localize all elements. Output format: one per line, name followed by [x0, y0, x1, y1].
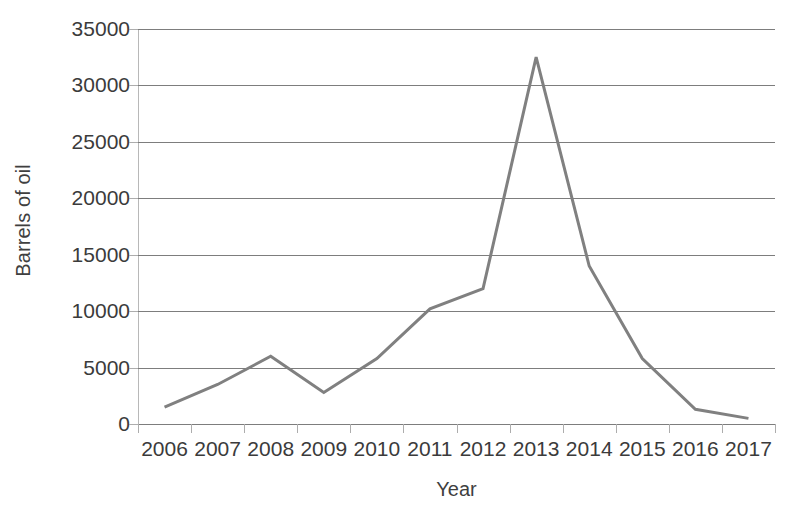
x-axis-tick [722, 424, 723, 433]
y-axis-tick-marks [129, 29, 138, 424]
y-axis-tick [129, 198, 138, 199]
x-axis-tick-label: 2011 [407, 437, 452, 461]
y-axis-tick-label: 35000 [72, 17, 130, 41]
y-axis-title-text: Barrels of oil [12, 164, 35, 277]
x-axis-tick [244, 424, 245, 433]
x-axis-title: Year [138, 478, 775, 501]
x-axis-tick-label: 2015 [619, 437, 666, 461]
x-axis-tick-label: 2010 [354, 437, 401, 461]
y-axis-tick [129, 142, 138, 143]
x-axis-tick [297, 424, 298, 433]
x-axis-tick [616, 424, 617, 433]
plot-area [138, 29, 775, 424]
y-axis-tick [129, 255, 138, 256]
y-axis-tick-label: 20000 [72, 186, 130, 210]
y-axis-tick [129, 368, 138, 369]
x-axis-tick-marks [138, 424, 775, 433]
y-axis-tick [129, 29, 138, 30]
x-axis-tick-label: 2017 [725, 437, 772, 461]
y-axis-tick-labels: 05000100001500020000250003000035000 [40, 0, 138, 440]
series-line-barrels-of-oil [138, 29, 775, 424]
x-axis-tick-label: 2007 [194, 437, 241, 461]
x-axis-tick [403, 424, 404, 433]
x-axis-tick [138, 424, 139, 433]
y-axis-tick [129, 85, 138, 86]
line-chart: Barrels of oil 0500010000150002000025000… [0, 0, 794, 528]
x-axis-tick-label: 2008 [247, 437, 294, 461]
x-axis-tick-label: 2014 [566, 437, 613, 461]
y-axis-tick [129, 424, 138, 425]
x-axis-tick-label: 2006 [141, 437, 188, 461]
y-axis-tick-label: 10000 [72, 299, 130, 323]
x-axis-tick [457, 424, 458, 433]
x-axis-tick [191, 424, 192, 433]
x-axis-tick-label: 2013 [513, 437, 560, 461]
x-axis-tick [350, 424, 351, 433]
x-axis-tick-label: 2012 [460, 437, 507, 461]
y-axis-tick-label: 5000 [83, 356, 130, 380]
x-axis-tick-label: 2009 [300, 437, 347, 461]
y-axis-tick [129, 311, 138, 312]
x-axis-tick [563, 424, 564, 433]
x-axis-tick [775, 424, 776, 433]
x-axis-tick [669, 424, 670, 433]
x-axis-tick-labels: 2006200720082009201020112012201320142015… [138, 437, 775, 469]
x-axis-tick-label: 2016 [672, 437, 719, 461]
y-axis-tick-label: 30000 [72, 73, 130, 97]
y-axis-tick-label: 25000 [72, 130, 130, 154]
x-axis-tick [510, 424, 511, 433]
y-axis-tick-label: 15000 [72, 243, 130, 267]
